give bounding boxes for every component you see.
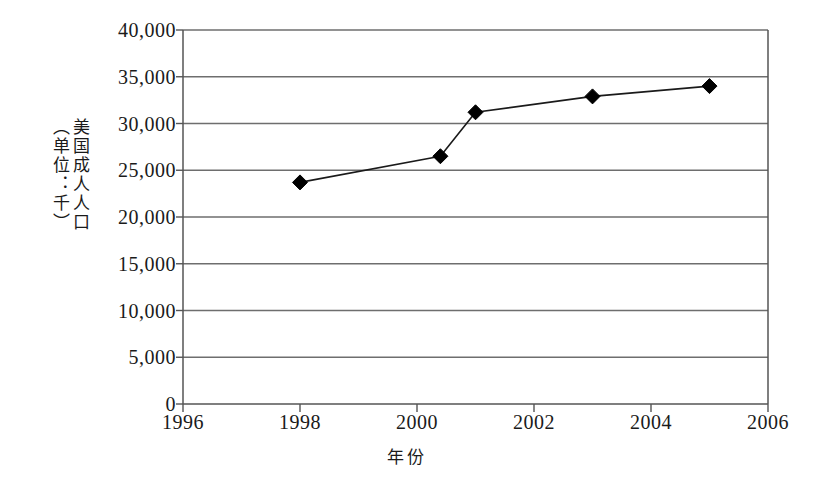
chart-figure: 美国成人人口 （单位：千） 05,00010,00015,00020,00025…: [0, 0, 813, 483]
x-axis-tick-label: 2004: [606, 412, 696, 432]
x-axis-tick-label: 1998: [255, 412, 345, 432]
x-axis-tick-label: 2000: [372, 412, 462, 432]
x-axis-tick-label: 2006: [723, 412, 813, 432]
x-axis-tick-labels: 199619982000200220042006: [0, 0, 813, 483]
x-axis-title: 年份: [0, 443, 813, 468]
x-axis-tick-label: 1996: [138, 412, 228, 432]
x-axis-tick-label: 2002: [489, 412, 579, 432]
